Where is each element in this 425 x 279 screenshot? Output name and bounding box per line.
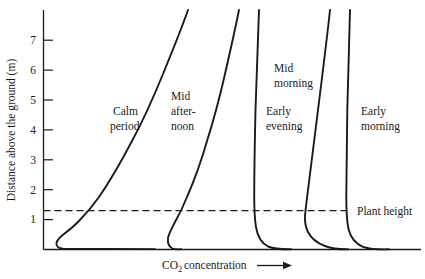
plant-height-label: Plant height [357, 205, 413, 218]
curve-label-early-evening: Early evening [266, 105, 303, 133]
curve-label-calm-period-line1: Calm [113, 105, 138, 117]
co2-profile-figure: 7 6 5 4 3 2 1 Distance above the ground … [0, 0, 425, 279]
x-axis-title-prefix: CO [162, 259, 178, 271]
y-tick-label-2: 2 [30, 184, 36, 196]
y-tick-label-7: 7 [30, 34, 36, 46]
y-tick-label-5: 5 [30, 94, 36, 106]
curve-label-early-evening-line2: evening [266, 120, 303, 133]
x-axis-title-suffix: concentration [184, 259, 247, 271]
y-tick-marks [44, 40, 54, 219]
y-tick-labels: 7 6 5 4 3 2 1 [30, 34, 36, 225]
y-tick-label-3: 3 [30, 154, 36, 166]
x-axis-arrow-icon [257, 262, 292, 269]
curve-label-calm-period: Calm period [110, 105, 140, 133]
x-axis-title-group: CO 2 concentration [162, 259, 292, 274]
curve-label-early-morning-line1: Early [361, 105, 386, 118]
curve-label-mid-morning: Mid morning [274, 62, 313, 90]
x-axis-title-subscript: 2 [178, 264, 182, 274]
curve-mid-morning [305, 10, 348, 249]
curve-label-early-evening-line1: Early [266, 105, 291, 118]
curve-label-mid-afternoon-line1: Mid [171, 90, 190, 102]
y-tick-label-4: 4 [30, 124, 36, 136]
chart-canvas: 7 6 5 4 3 2 1 Distance above the ground … [0, 0, 425, 279]
curve-label-calm-period-line2: period [110, 120, 140, 133]
curve-label-mid-afternoon-line2: after- [171, 105, 196, 117]
y-axis-title: Distance above the ground (m) [5, 59, 18, 202]
y-tick-label-6: 6 [30, 64, 36, 76]
curve-label-mid-morning-line1: Mid [274, 62, 293, 74]
curve-label-early-morning: Early morning [361, 105, 400, 133]
curve-label-mid-morning-line2: morning [274, 77, 313, 90]
curve-label-mid-afternoon: Mid after- noon [171, 90, 196, 132]
curve-label-early-morning-line2: morning [361, 120, 400, 133]
y-tick-label-1: 1 [30, 213, 36, 225]
curve-label-mid-afternoon-line3: noon [171, 120, 194, 132]
